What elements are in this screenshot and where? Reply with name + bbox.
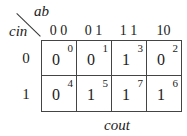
kmap-cell-m1: 0 1 xyxy=(77,41,112,76)
cell-index: 7 xyxy=(138,77,144,89)
cell-value: 1 xyxy=(122,86,130,104)
cell-index: 0 xyxy=(68,42,74,54)
cell-index: 6 xyxy=(173,77,179,89)
cell-index: 5 xyxy=(103,77,109,89)
column-header-00: 0 0 xyxy=(41,23,76,39)
kmap-cell-m2: 0 2 xyxy=(147,41,182,76)
row-variable-label: cin xyxy=(9,23,27,40)
column-header-01: 0 1 xyxy=(76,23,111,39)
kmap-cell-m0: 0 0 xyxy=(42,41,77,76)
row-header-1: 1 xyxy=(16,86,36,103)
cell-value: 1 xyxy=(87,86,95,104)
cell-value: 0 xyxy=(87,51,95,69)
column-variable-label: ab xyxy=(34,3,49,20)
cell-index: 3 xyxy=(138,42,144,54)
cell-value: 1 xyxy=(157,86,165,104)
kmap-cell-m3: 1 3 xyxy=(112,41,147,76)
cell-value: 0 xyxy=(157,51,165,69)
cell-index: 1 xyxy=(103,42,109,54)
row-header-0: 0 xyxy=(16,50,36,67)
kmap-cell-m5: 1 5 xyxy=(77,76,112,111)
output-label: cout xyxy=(104,117,130,134)
column-header-10: 10 xyxy=(146,23,181,39)
kmap-grid: 0 0 0 1 1 3 0 2 0 4 1 5 1 7 1 6 xyxy=(41,40,182,112)
cell-value: 0 xyxy=(52,51,60,69)
cell-index: 2 xyxy=(173,42,179,54)
column-header-11: 1 1 xyxy=(111,23,146,39)
kmap-cell-m4: 0 4 xyxy=(42,76,77,111)
kmap-cell-m6: 1 6 xyxy=(147,76,182,111)
cell-value: 1 xyxy=(122,51,130,69)
kmap-cell-m7: 1 7 xyxy=(112,76,147,111)
cell-value: 0 xyxy=(52,86,60,104)
cell-index: 4 xyxy=(68,77,74,89)
